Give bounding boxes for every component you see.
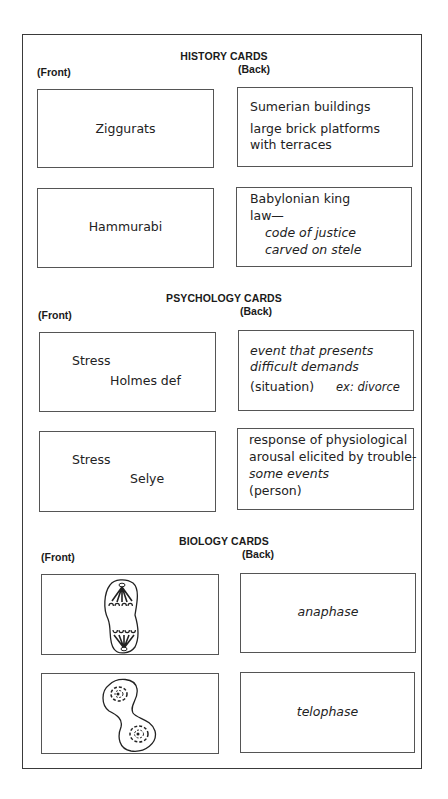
telophase-cell-icon xyxy=(101,677,159,753)
psychology-card-1-front: Stress Holmes def xyxy=(39,332,216,412)
psychology-card-1-back: event that presents difficult demands (s… xyxy=(238,330,414,411)
psychology-section-title: PSYCHOLOGY CARDS xyxy=(0,292,448,304)
card-back-line: Sumerian buildings xyxy=(250,99,370,115)
card-back-line: carved on stele xyxy=(265,242,361,258)
card-back-line: (situation) xyxy=(250,379,314,395)
history-card-2-front: Hammurabi xyxy=(37,188,214,268)
anaphase-cell-icon xyxy=(100,577,144,655)
psychology-front-label: (Front) xyxy=(38,309,72,321)
history-section-title: HISTORY CARDS xyxy=(0,50,448,62)
card-front-text: Hammurabi xyxy=(38,219,213,235)
card-back-line: code of justice xyxy=(265,225,356,241)
card-front-line: Stress xyxy=(72,452,110,468)
history-card-2-back: Babylonian king law— code of justice car… xyxy=(236,187,412,267)
card-back-line: difficult demands xyxy=(250,359,359,375)
card-back-line: some events xyxy=(249,466,329,482)
biology-card-1-front xyxy=(41,574,219,655)
psychology-card-2-front: Stress Selye xyxy=(39,431,216,512)
card-front-line: Stress xyxy=(72,353,110,369)
biology-card-2-back: telophase xyxy=(240,672,415,753)
card-back-line: event that presents xyxy=(250,343,373,359)
history-back-label: (Back) xyxy=(238,63,270,75)
biology-card-2-front xyxy=(41,673,219,754)
biology-back-label: (Back) xyxy=(242,548,274,560)
card-back-line: with terraces xyxy=(250,137,332,153)
card-back-line: arousal elicited by trouble- xyxy=(249,449,416,465)
card-front-text: Ziggurats xyxy=(38,121,213,137)
card-back-line: large brick platforms xyxy=(250,121,380,137)
card-back-line: law— xyxy=(250,208,284,224)
psychology-back-label: (Back) xyxy=(240,305,272,317)
card-front-line: Selye xyxy=(130,471,164,487)
history-card-1-back: Sumerian buildings large brick platforms… xyxy=(237,87,413,167)
card-back-line: ex: divorce xyxy=(336,379,400,395)
card-front-line: Holmes def xyxy=(110,373,181,389)
card-back-text: anaphase xyxy=(241,604,415,620)
card-back-text: telophase xyxy=(241,704,414,720)
biology-card-1-back: anaphase xyxy=(240,573,416,653)
biology-front-label: (Front) xyxy=(41,551,75,563)
card-back-line: (person) xyxy=(249,483,302,499)
psychology-card-2-back: response of physiological arousal elicit… xyxy=(237,428,414,510)
history-card-1-front: Ziggurats xyxy=(37,89,214,168)
history-front-label: (Front) xyxy=(37,66,71,78)
card-back-line: Babylonian king xyxy=(250,191,350,207)
card-back-line: response of physiological xyxy=(249,432,407,448)
biology-section-title: BIOLOGY CARDS xyxy=(0,535,448,547)
